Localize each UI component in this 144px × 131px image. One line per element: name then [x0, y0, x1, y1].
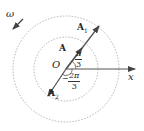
vector-a1-subscript: 1	[84, 27, 88, 34]
vector-a1-label: A1	[77, 23, 88, 34]
x-axis-label: x	[128, 72, 134, 82]
vector-a-label: A	[59, 44, 66, 53]
angle1-denominator: 3	[75, 60, 82, 69]
angle-2pi-over-3: 2π 3	[68, 72, 80, 91]
phasor-diagram: ω A1 A O π 3 − 2π 3 A2 x	[0, 0, 144, 131]
origin-label: O	[52, 60, 60, 70]
vector-a1-letter: A	[77, 22, 84, 32]
vector-a2-subscript: 2	[55, 93, 59, 100]
angle2-denominator: 3	[68, 82, 80, 91]
omega-label: ω	[6, 9, 14, 19]
angle2-numerator: 2π	[68, 72, 80, 82]
vector-a2-label: A2	[48, 89, 59, 100]
omega-arrow-icon	[13, 19, 23, 29]
angle1-numerator: π	[75, 50, 82, 60]
diagram-graphics	[0, 0, 144, 131]
angle-pi-over-3: π 3	[75, 50, 82, 69]
vector-a2-letter: A	[48, 88, 55, 98]
